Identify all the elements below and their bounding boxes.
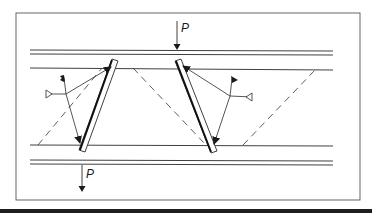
bottom-flange — [30, 160, 333, 165]
bottom-rule — [0, 209, 372, 213]
right-plate — [175, 59, 217, 153]
diagram-frame — [16, 13, 360, 200]
left-plate — [79, 59, 118, 152]
top-load-label: P — [181, 21, 189, 35]
bottom-load-arrow: P — [79, 165, 95, 192]
dashed-lines — [38, 68, 316, 145]
bottom-load-label: P — [86, 167, 94, 181]
top-flange — [30, 50, 333, 55]
top-load-arrow: P — [174, 21, 190, 50]
weld-diagram: P P — [0, 0, 372, 213]
lower-inner-line — [30, 145, 333, 146]
